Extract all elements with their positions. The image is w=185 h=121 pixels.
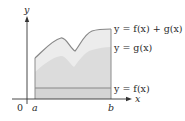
- b-label: b: [108, 102, 114, 113]
- g-curve-label: y = g(x): [113, 42, 152, 53]
- y-axis-arrow-icon: [25, 16, 29, 22]
- x-axis-arrow-icon: [126, 97, 132, 101]
- area-sum-diagram: y x 0 a b y = f(x) + g(x) y = g(x) y = f…: [0, 0, 185, 121]
- x-axis-label: x: [135, 93, 141, 104]
- origin-label: 0: [17, 102, 23, 113]
- y-axis-label: y: [23, 4, 30, 15]
- f-region: [35, 88, 111, 99]
- sum-curve-label: y = f(x) + g(x): [113, 23, 183, 34]
- a-label: a: [32, 102, 38, 113]
- f-curve-label: y = f(x): [113, 83, 150, 94]
